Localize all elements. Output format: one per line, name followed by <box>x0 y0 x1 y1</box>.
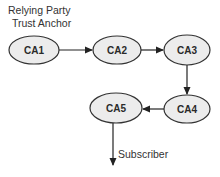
svg-text:CA5: CA5 <box>106 103 126 114</box>
certification-path-diagram: Relying Party Trust Anchor CA1 CA2 CA3 <box>0 0 220 177</box>
node-ca4: CA4 <box>164 95 210 123</box>
svg-text:CA1: CA1 <box>24 45 44 56</box>
svg-text:CA3: CA3 <box>177 45 197 56</box>
svg-text:CA2: CA2 <box>107 45 127 56</box>
node-ca1: CA1 <box>9 36 59 64</box>
diagram-graphics: CA1 CA2 CA3 CA4 CA5 <box>0 0 220 177</box>
node-ca5: CA5 <box>90 93 142 123</box>
subscriber-label: Subscriber <box>118 148 168 161</box>
node-ca2: CA2 <box>93 36 141 64</box>
node-ca3: CA3 <box>164 35 210 65</box>
svg-text:CA4: CA4 <box>177 104 197 115</box>
